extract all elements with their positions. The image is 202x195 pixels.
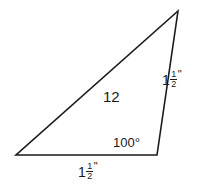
fraction-one-half: 1 2 xyxy=(86,162,93,182)
denominator: 2 xyxy=(86,172,93,181)
whole-part: 1 xyxy=(162,73,170,87)
numerator: 1 xyxy=(170,70,177,79)
fraction-one-half: 1 2 xyxy=(170,70,177,90)
whole-part: 1 xyxy=(78,165,86,179)
triangle-shape xyxy=(0,0,202,195)
mixed-number-bottom: 1 1 2 " xyxy=(78,162,98,182)
side-label-right: 1 1 2 " xyxy=(162,70,182,90)
triangle-figure: 12 100° 1 1 2 " 1 1 2 " xyxy=(0,0,202,195)
mixed-number-right: 1 1 2 " xyxy=(162,70,182,90)
side-label-bottom: 1 1 2 " xyxy=(78,162,98,182)
denominator: 2 xyxy=(170,80,177,89)
angle-label-100: 100° xyxy=(113,136,140,149)
side-label-interior: 12 xyxy=(103,89,120,104)
numerator: 1 xyxy=(86,162,93,171)
triangle-outline xyxy=(16,11,178,155)
inch-mark-icon: " xyxy=(94,161,98,172)
inch-mark-icon: " xyxy=(178,69,182,80)
